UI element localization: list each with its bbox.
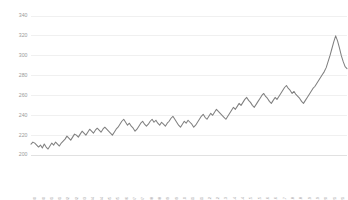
y-tick-label: 240 [19, 112, 28, 118]
y-tick-label: 200 [19, 151, 28, 157]
line-chart: 340320300280260240220200 1/1/20008/1/200… [0, 0, 348, 200]
chart-background [0, 0, 348, 200]
chart-container: 340320300280260240220200 1/1/20008/1/200… [0, 0, 348, 200]
y-tick-label: 220 [19, 132, 28, 138]
y-tick-label: 260 [19, 92, 28, 98]
y-tick-label: 280 [19, 72, 28, 78]
y-tick-label: 340 [19, 12, 28, 18]
y-tick-label: 300 [19, 52, 28, 58]
y-tick-label: 320 [19, 32, 28, 38]
